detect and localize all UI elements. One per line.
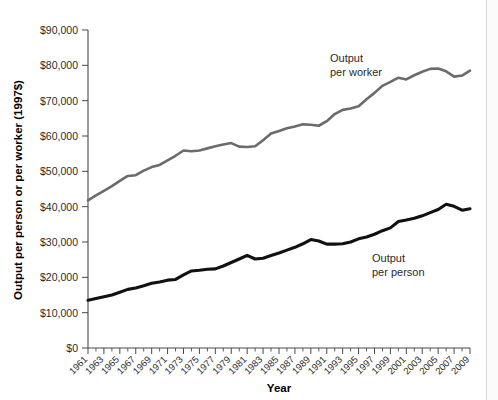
x-axis-tick-label: 2009 — [449, 354, 472, 377]
y-axis-tick-labels: $0$10,000$20,000$30,000$40,000$50,000$60… — [40, 24, 78, 354]
x-axis-ticks — [88, 348, 470, 354]
x-axis-tick-labels: 1961196319651967196919711973197519771979… — [67, 354, 472, 377]
y-axis-tick-label: $0 — [66, 342, 78, 354]
x-axis-title: Year — [267, 382, 292, 394]
y-axis-title: Output per person or per worker (1997$) — [12, 80, 24, 300]
svg-text:Output: Output — [330, 52, 363, 64]
y-axis-tick-label: $20,000 — [40, 271, 78, 283]
y-axis-tick-label: $90,000 — [40, 24, 78, 36]
y-axis-tick-label: $40,000 — [40, 201, 78, 213]
line-chart: $0$10,000$20,000$30,000$40,000$50,000$60… — [0, 0, 498, 400]
series-label-output-per-person: Output per person — [372, 252, 425, 278]
series-line-output-per-person — [88, 204, 470, 300]
y-axis-tick-label: $80,000 — [40, 59, 78, 71]
svg-text:per person: per person — [372, 266, 425, 278]
chart-figure: $0$10,000$20,000$30,000$40,000$50,000$60… — [0, 0, 498, 400]
y-axis-tick-label: $70,000 — [40, 95, 78, 107]
page-margin — [487, 0, 498, 400]
series-label-output-per-worker: Output per worker — [330, 52, 382, 78]
series-line-output-per-worker — [88, 69, 470, 201]
y-axis-tick-label: $50,000 — [40, 165, 78, 177]
y-axis-tick-label: $10,000 — [40, 307, 78, 319]
y-axis-tick-label: $60,000 — [40, 130, 78, 142]
y-axis-tick-label: $30,000 — [40, 236, 78, 248]
svg-text:Output: Output — [372, 252, 405, 264]
svg-text:per worker: per worker — [330, 66, 382, 78]
